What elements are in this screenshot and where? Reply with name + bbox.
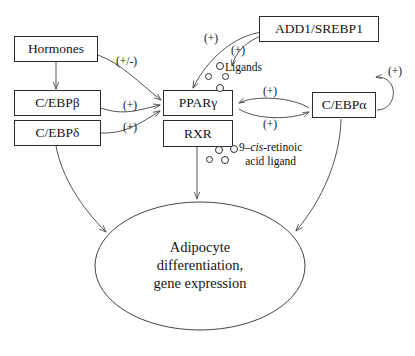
retinoic-suffix: -retinoic [263, 141, 302, 153]
edge-label-add1-to-ligands: (+) [231, 45, 245, 57]
retinoic-prefix: 9– [239, 141, 251, 153]
node-cebp-alpha[interactable]: C/EBPα [312, 92, 376, 118]
ligand-dot-icon [216, 84, 224, 92]
node-ppar-gamma-label: PPARγ [179, 96, 218, 110]
retinoic-cis: cis [251, 141, 264, 153]
ligand-dot-icon [216, 62, 224, 70]
node-cebp-beta-label: C/EBPβ [35, 96, 79, 110]
edge-label-cebpb-to-ppary: (+) [123, 100, 137, 112]
edge-label-cebpa-self-loop: (+) [388, 66, 402, 78]
node-cebp-beta[interactable]: C/EBPβ [14, 90, 101, 116]
retinoic-acid-line-2: acid ligand [239, 155, 302, 169]
node-cebp-delta[interactable]: C/EBPδ [14, 120, 101, 146]
edge-label-cebpd-to-ppary: (+) [123, 122, 137, 134]
ligand-dot-icon [215, 146, 223, 154]
node-ppar-gamma[interactable]: PPARγ [163, 90, 233, 116]
outcome-label: Adipocyte differentiation, gene expressi… [153, 239, 246, 293]
outcome-line-2: differentiation, [153, 257, 246, 275]
node-outcome: Adipocyte differentiation, gene expressi… [95, 202, 305, 330]
edge-cebpd-to-outcome [56, 146, 106, 232]
edge-cebpa-self-loop [376, 77, 393, 110]
ligand-dot-icon [206, 156, 213, 163]
retinoic-acid-ligand-label: 9–cis-retinoic acid ligand [239, 141, 302, 169]
edge-cebpa-to-outcome [296, 119, 341, 231]
ligands-label: Ligands [225, 61, 262, 75]
ligand-dot-icon [221, 156, 229, 164]
outcome-line-3: gene expression [153, 275, 246, 293]
node-hormones-label: Hormones [28, 42, 84, 56]
node-rxr[interactable]: RXR [163, 120, 233, 147]
node-add1-srebp1[interactable]: ADD1/SREBP1 [259, 16, 379, 42]
outcome-line-1: Adipocyte [153, 239, 246, 257]
retinoic-acid-line-1: 9–cis-retinoic [239, 141, 302, 155]
edge-label-cebpa-to-ppary: (+) [263, 86, 277, 98]
ligand-dot-icon [205, 73, 212, 80]
node-hormones[interactable]: Hormones [14, 36, 98, 62]
node-add1-srebp1-label: ADD1/SREBP1 [275, 22, 363, 36]
edge-cebpa-to-ppary [239, 98, 309, 108]
node-rxr-label: RXR [184, 127, 212, 141]
ligand-dot-icon [230, 145, 238, 153]
edge-label-hormones-to-ppary: (+/-) [116, 56, 137, 68]
edge-ppary-to-cebpa [239, 109, 309, 118]
node-cebp-delta-label: C/EBPδ [36, 126, 80, 140]
edge-label-ppary-to-cebpa: (+) [263, 119, 277, 131]
edge-label-add1-to-ppary: (+) [204, 33, 218, 45]
node-cebp-alpha-label: C/EBPα [322, 98, 367, 112]
pathway-diagram: Adipocyte differentiation, gene expressi… [0, 0, 415, 356]
